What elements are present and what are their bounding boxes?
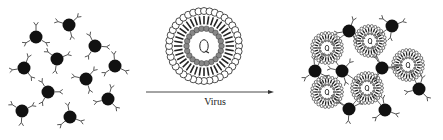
- aggregated-complex-figure: [290, 0, 443, 140]
- virus-particle-icon: [392, 49, 425, 82]
- antibody-coated-particle: [102, 51, 130, 76]
- antibody-coated-particle: [71, 66, 98, 93]
- virus-particle-icon: [351, 72, 384, 105]
- antibody-coated-particle: [22, 22, 50, 46]
- reaction-arrow: [146, 90, 274, 94]
- arrow-label: Virus: [140, 96, 290, 107]
- virus-particle-figure: [140, 0, 290, 140]
- antibody-coated-particle: [57, 102, 84, 128]
- antibody-coated-particle: [335, 99, 363, 124]
- virus-particle-icon: [166, 8, 243, 85]
- antibody-coated-particle: [85, 32, 110, 60]
- free-particles-panel: [0, 0, 140, 140]
- virus-particle-icon: [311, 76, 344, 109]
- antibody-coated-particle: [93, 84, 120, 111]
- antibody-coated-particle: [9, 53, 35, 81]
- antibody-coated-particle: [54, 13, 81, 40]
- antibody-coated-particle: [44, 48, 72, 74]
- antibody-particles-figure: [0, 0, 140, 140]
- antibody-coated-particle: [8, 101, 36, 126]
- antibody-coated-particle: [38, 78, 62, 106]
- virus-particle-icon: [311, 32, 344, 65]
- virus-reaction-panel: Virus: [140, 0, 290, 140]
- agglutination-panel: [290, 0, 443, 140]
